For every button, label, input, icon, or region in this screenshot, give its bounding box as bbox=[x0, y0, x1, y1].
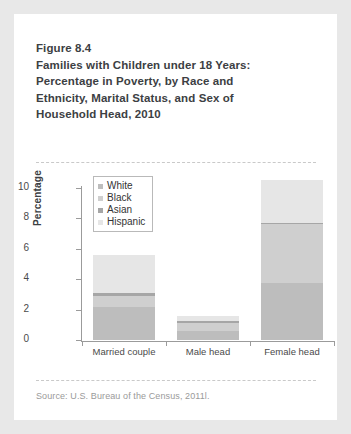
legend-swatch-white bbox=[98, 184, 103, 189]
y-tick-mark bbox=[76, 310, 81, 311]
y-tick-mark bbox=[76, 218, 81, 219]
y-tick-mark bbox=[76, 188, 81, 189]
bar-segment-hispanic bbox=[93, 255, 155, 293]
stacked-bar-chart: Percentage 0246810 Married coupleMale he… bbox=[36, 174, 321, 370]
bar-segment-white bbox=[93, 307, 155, 340]
legend-item: Black bbox=[98, 192, 145, 204]
divider-top bbox=[36, 162, 316, 163]
y-tick-mark bbox=[76, 249, 81, 250]
y-tick-mark bbox=[76, 340, 81, 341]
y-tick: 0 bbox=[36, 340, 81, 341]
y-tick-label: 0 bbox=[23, 333, 29, 344]
legend-swatch-asian bbox=[98, 208, 103, 213]
y-tick: 10 bbox=[36, 188, 81, 189]
bar-segment-hispanic bbox=[261, 180, 323, 223]
bar-segment-black bbox=[177, 323, 239, 331]
legend-swatch-black bbox=[98, 196, 103, 201]
x-axis-line bbox=[81, 341, 334, 342]
page-title: Figure 8.4 Families with Children under … bbox=[36, 40, 316, 123]
legend: WhiteBlackAsianHispanic bbox=[93, 176, 153, 232]
legend-items: WhiteBlackAsianHispanic bbox=[98, 180, 145, 228]
bar-married-couple bbox=[93, 255, 155, 340]
y-tick-label: 4 bbox=[23, 272, 29, 283]
legend-swatch-hispanic bbox=[98, 220, 103, 225]
y-tick: 6 bbox=[36, 249, 81, 250]
bar-segment-white bbox=[177, 331, 239, 340]
legend-label: Hispanic bbox=[107, 216, 145, 228]
title-line-1: Figure 8.4 bbox=[36, 40, 316, 57]
source-note: Source: U.S. Bureau of the Census, 2011l… bbox=[36, 391, 321, 401]
x-tick-label: Married couple bbox=[82, 346, 166, 357]
bar-segment-black bbox=[261, 224, 323, 283]
y-tick-label: 2 bbox=[23, 303, 29, 314]
y-tick-label: 10 bbox=[18, 181, 29, 192]
legend-item: Hispanic bbox=[98, 216, 145, 228]
divider-bottom bbox=[36, 380, 316, 381]
y-tick-label: 6 bbox=[23, 242, 29, 253]
y-tick-mark bbox=[76, 279, 81, 280]
title-line-4: Ethnicity, Marital Status, and Sex of bbox=[36, 90, 316, 107]
x-tick-label: Female head bbox=[250, 346, 334, 357]
bar-female-head bbox=[261, 180, 323, 340]
bar-segment-white bbox=[261, 283, 323, 340]
title-line-2: Families with Children under 18 Years: bbox=[36, 57, 316, 74]
legend-label: White bbox=[107, 180, 133, 192]
x-tick-mark bbox=[334, 341, 335, 346]
y-tick: 8 bbox=[36, 218, 81, 219]
title-line-3: Percentage in Poverty, by Race and bbox=[36, 73, 316, 90]
y-tick-label: 8 bbox=[23, 211, 29, 222]
legend-label: Asian bbox=[107, 204, 132, 216]
y-tick: 4 bbox=[36, 279, 81, 280]
legend-item: White bbox=[98, 180, 145, 192]
legend-label: Black bbox=[107, 192, 131, 204]
figure-card: Figure 8.4 Families with Children under … bbox=[14, 14, 337, 420]
title-line-5: Household Head, 2010 bbox=[36, 106, 316, 123]
x-tick-label: Male head bbox=[166, 346, 250, 357]
y-tick: 2 bbox=[36, 310, 81, 311]
bar-male-head bbox=[177, 316, 239, 340]
legend-item: Asian bbox=[98, 204, 145, 216]
bar-segment-black bbox=[93, 296, 155, 307]
